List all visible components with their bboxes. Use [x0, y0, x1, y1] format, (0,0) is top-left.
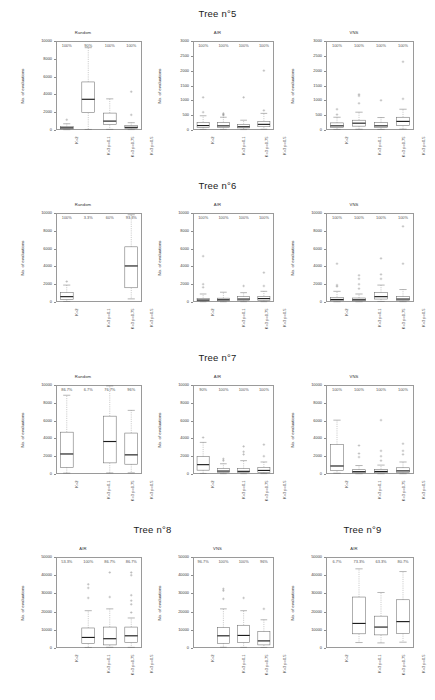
x-tick-label: K=3 p=0.5 — [421, 137, 426, 155]
box-K=2 — [60, 395, 73, 473]
boxplot-series — [288, 30, 420, 178]
box-K=3 p=0.5 — [258, 271, 270, 301]
group-title-tree9: Tree n°9 — [145, 524, 435, 535]
box-K=3 p=0.5 — [396, 60, 409, 129]
panel-tree8-air: AIRNo. of evaluations0100002000030000400… — [18, 546, 148, 696]
panel-tree5-random: RandomNo. of evaluations0200040006000800… — [18, 30, 148, 178]
box-K=2 — [197, 255, 209, 302]
x-tick-label: K=3 p=0.5 — [149, 655, 154, 673]
box-K=2 — [330, 262, 343, 301]
box-K=3 p=0.75 — [374, 257, 387, 301]
box-K=3 p=0.1 — [217, 588, 229, 648]
box-K=3 p=0.1 — [217, 112, 229, 129]
x-tick-label: K=3 p=0.5 — [282, 655, 287, 673]
box-K=3 p=0.75 — [374, 99, 387, 129]
box-K=3 p=0.1 — [352, 93, 365, 129]
box-K=3 p=0.75 — [103, 99, 116, 130]
x-tick-label: K=3 p=0.5 — [149, 481, 154, 499]
box-K=3 p=0.5 — [125, 410, 138, 472]
x-tick-label: K=3 p=0.5 — [149, 309, 154, 327]
boxplot-series — [18, 374, 148, 522]
panel-tree6-air: AIRNo. of evaluations0200040006000800010… — [155, 202, 280, 350]
boxplot-series — [288, 202, 420, 350]
box-K=3 p=0.5 — [396, 442, 409, 473]
panel-tree9-air: AIRNo. of evaluations0100002000030000400… — [288, 546, 420, 696]
panel-tree7-air: AIRNo. of evaluations0200040006000800010… — [155, 374, 280, 522]
panel-tree8-vns: VNSNo. of evaluations0100002000030000400… — [155, 546, 280, 696]
box-K=3 p=0.75 — [103, 386, 116, 473]
box-K=3 p=0.1 — [217, 292, 229, 302]
boxplot-series — [155, 30, 280, 178]
x-tick-label: K=3 p=0.5 — [282, 137, 287, 155]
panel-tree6-random: RandomNo. of evaluations0200040006000800… — [18, 202, 148, 350]
boxplot-series — [155, 374, 280, 522]
box-K=3 p=0.75 — [238, 597, 250, 648]
group-title-tree6: Tree n°6 — [0, 180, 435, 191]
panel-tree7-random: RandomNo. of evaluations0200040006000800… — [18, 374, 148, 522]
x-tick-label: K=3 p=0.5 — [421, 309, 426, 327]
figure-sheet: Tree n°5 Tree n°6 Tree n°7 Tree n°8 Tree… — [0, 0, 435, 700]
panel-tree7-vns: VNSNo. of evaluations0200040006000800010… — [288, 374, 420, 522]
box-K=2 — [60, 118, 73, 129]
box-K=3 p=0.75 — [238, 285, 250, 302]
box-K=2 — [330, 108, 343, 129]
box-K=3 p=0.5 — [125, 215, 138, 299]
box-K=3 p=0.75 — [238, 445, 250, 474]
box-K=3 p=0.5 — [258, 443, 270, 473]
box-K=3 p=0.1 — [217, 458, 229, 474]
boxplot-series — [288, 546, 420, 696]
box-K=2 — [197, 436, 209, 473]
box-K=3 p=0.1 — [82, 583, 95, 647]
box-K=2 — [197, 96, 209, 129]
x-tick-label: K=3 p=0.5 — [149, 137, 154, 155]
box-K=3 p=0.1 — [352, 444, 365, 474]
box-K=3 p=0.75 — [374, 592, 387, 642]
panel-tree5-vns: VNSNo. of evaluations0500100015002000250… — [288, 30, 420, 178]
box-K=3 p=0.75 — [374, 419, 387, 474]
box-K=3 p=0.1 — [352, 569, 365, 643]
boxplot-series — [18, 546, 148, 696]
x-tick-label: K=3 p=0.5 — [282, 309, 287, 327]
box-K=3 p=0.5 — [396, 572, 409, 643]
boxplot-series — [18, 202, 148, 350]
box-K=3 p=0.75 — [238, 96, 250, 129]
box-K=3 p=0.1 — [82, 48, 95, 130]
panel-tree6-vns: VNSNo. of evaluations0200040006000800010… — [288, 202, 420, 350]
boxplot-series — [155, 546, 280, 696]
box-K=3 p=0.5 — [258, 608, 270, 648]
x-tick-label: K=3 p=0.5 — [421, 655, 426, 673]
box-K=2 — [60, 280, 73, 301]
box-K=3 p=0.5 — [258, 69, 270, 129]
group-title-tree7: Tree n°7 — [0, 352, 435, 363]
box-K=2 — [330, 420, 343, 473]
box-K=3 p=0.5 — [125, 90, 138, 129]
x-tick-label: K=3 p=0.5 — [421, 481, 426, 499]
box-K=3 p=0.5 — [396, 225, 409, 302]
boxplot-series — [155, 202, 280, 350]
panel-tree5-air: AIRNo. of evaluations0500100015002000250… — [155, 30, 280, 178]
box-K=3 p=0.5 — [125, 571, 138, 647]
box-K=3 p=0.1 — [352, 274, 365, 302]
box-K=3 p=0.75 — [103, 571, 116, 647]
boxplot-series — [18, 30, 148, 178]
x-tick-label: K=3 p=0.5 — [282, 481, 287, 499]
group-title-tree5: Tree n°5 — [0, 8, 435, 19]
boxplot-series — [288, 374, 420, 522]
